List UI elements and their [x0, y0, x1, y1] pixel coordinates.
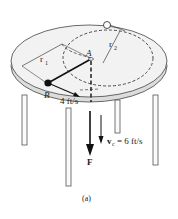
label-r1-sub: 1 [45, 60, 48, 66]
hole-a [89, 58, 94, 61]
particle-c [104, 22, 111, 29]
figure-caption: (a) [82, 194, 91, 203]
label-r2: r [109, 39, 112, 49]
label-velocity-c-value: = 6 ft/s [117, 136, 143, 146]
label-r1: r [40, 54, 43, 64]
label-velocity-c-sub: c [112, 141, 115, 147]
label-r2-sub: 2 [114, 45, 117, 51]
physics-diagram: A B r 1 r 2 4 ft/s v c = 6 ft/s F (a) [0, 0, 178, 219]
force-arrowhead [86, 144, 94, 156]
label-speed-b: 4 ft/s [60, 96, 79, 106]
velocity-c-arrowhead [99, 136, 104, 144]
label-force: F [87, 157, 93, 167]
label-b: B [44, 90, 50, 100]
label-a: A [85, 48, 92, 58]
